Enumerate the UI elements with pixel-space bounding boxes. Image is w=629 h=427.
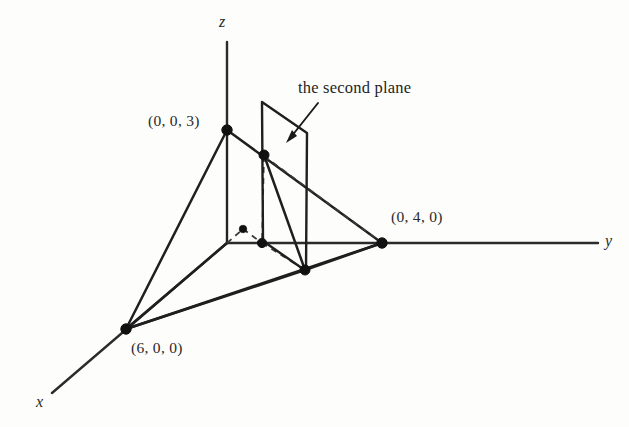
point-y-intercept (377, 238, 387, 248)
construction-lines (126, 131, 382, 329)
diagram-canvas: (0, 0, 3) (0, 4, 0) (6, 0, 0) z y x the … (0, 0, 629, 427)
edge-z-to-y (227, 130, 382, 243)
coordinate-figure (0, 0, 629, 427)
first-plane-triangle (126, 130, 382, 329)
vertex-markers (121, 125, 387, 334)
label-z-intercept: (0, 0, 3) (148, 112, 200, 130)
second-plane (262, 102, 307, 271)
label-x-intercept: (6, 0, 0) (131, 339, 183, 357)
second-plane-face (262, 102, 307, 271)
label-y-intercept: (0, 4, 0) (391, 208, 443, 226)
point-x-intercept (121, 324, 131, 334)
label-second-plane: the second plane (298, 78, 411, 98)
point-plane-upper-node (259, 150, 269, 160)
label-axis-x: x (36, 393, 43, 411)
point-plane-floor-node (300, 265, 310, 275)
point-y-axis-node (257, 238, 266, 247)
label-axis-z: z (219, 13, 225, 31)
point-interior-dot (239, 225, 247, 233)
point-z-intercept (222, 125, 232, 135)
edge-floor-node-to-y (305, 243, 382, 270)
label-axis-y: y (605, 232, 612, 250)
edge-x-to-origin (126, 243, 227, 329)
hidden-lines (227, 156, 382, 270)
